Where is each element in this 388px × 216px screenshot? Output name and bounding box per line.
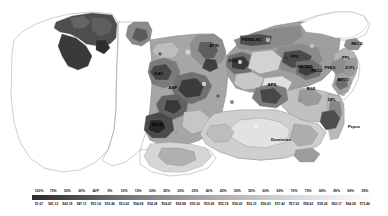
legend-value-tick: $55.09: [204, 201, 214, 207]
legend-percentile-tick: 95%: [362, 188, 369, 194]
zone-comed: [54, 13, 117, 70]
legend-percentile-tick: 75%: [50, 188, 57, 194]
legend-percentile-tick: 80%: [319, 188, 326, 194]
legend-value-tick: $58.42: [303, 201, 313, 207]
legend-percentile-tick: 30%: [177, 188, 184, 194]
legend-value-tick: $41.15: [48, 201, 58, 207]
zone-label-pepco: Pepco: [348, 125, 360, 129]
legend-percentile-tick: 10%: [121, 188, 128, 194]
legend-percentile-tick: 50%: [234, 188, 241, 194]
zone-label-atsi: ATSI: [209, 44, 219, 48]
legend-value-tick: $53.62: [119, 201, 129, 207]
zone-label-deok: DEOK: [152, 123, 165, 127]
legend-percentile-tick: 90%: [347, 188, 354, 194]
zone-label-dominion: Dominion: [271, 138, 291, 142]
zone-label-day: DAY: [155, 72, 164, 76]
zone-label-ppl: PPL: [291, 55, 299, 59]
legend-percentile-tick: AVP: [92, 188, 99, 194]
legend-value-tick: $56.05: [232, 201, 242, 207]
legend-percentile-tick: 75%: [305, 188, 312, 194]
legend-value-tick: $57.42: [275, 201, 285, 207]
legend-percentile-tick: 40%: [206, 188, 213, 194]
legend-value-ticks: $1.67$41.15$43.19$47.11$53.14$53.46$53.6…: [32, 201, 372, 208]
legend-percentile-tick: 15%: [135, 188, 142, 194]
zone-ekpc: [144, 142, 212, 172]
legend-value-tick: $47.11: [77, 201, 87, 207]
legend-percentile-tick: 20%: [149, 188, 156, 194]
legend-value-tick: $56.31: [247, 201, 257, 207]
legend-percentile-tick: 45%: [220, 188, 227, 194]
zone-label-penelec: PENELEC: [242, 38, 262, 42]
legend-value-tick: $73.46: [360, 201, 370, 207]
legend-value-tick: $43.19: [62, 201, 72, 207]
legend-value-tick: $55.30: [190, 201, 200, 207]
legend-value-tick: $54.47: [162, 201, 172, 207]
zone-label-ppl-east: PPL: [342, 56, 350, 60]
zone-label-reco: RECO: [351, 42, 363, 46]
legend-value-tick: $59.34: [317, 201, 327, 207]
legend-value-tick: $54.38: [147, 201, 157, 207]
zone-label-aeco: AECO: [337, 78, 349, 82]
legend-percentile-tick: 65%: [277, 188, 284, 194]
legend-value-tick: $64.28: [346, 201, 356, 207]
zone-label-aps: APS: [268, 83, 277, 87]
legend-value-tick: $60.17: [332, 201, 342, 207]
legend-percentile-tick: 50%: [64, 188, 71, 194]
legend-value-tick: $54.08: [133, 201, 143, 207]
legend-value-tick: $56.65: [261, 201, 271, 207]
map-svg: [0, 0, 388, 188]
legend-percentile-ticks: 100%75%50%25%AVP5%10%15%20%25%30%35%40%4…: [32, 188, 372, 195]
zone-label-aep: AEP: [169, 86, 178, 90]
legend-value-tick: $55.78: [218, 201, 228, 207]
legend-percentile-tick: 100%: [35, 188, 44, 194]
legend-percentile-tick: 5%: [107, 188, 112, 194]
legend-value-tick: $1.67: [35, 201, 43, 207]
legend-percentile-tick: 85%: [333, 188, 340, 194]
legend-value-tick: $53.46: [105, 201, 115, 207]
zone-label-jcpl: JCPL: [345, 66, 355, 70]
legend-percentile-tick: 25%: [78, 188, 85, 194]
legend-percentile-tick: 25%: [163, 188, 170, 194]
legend-value-tick: $54.98: [176, 201, 186, 207]
legend-value-tick: $57.63: [289, 201, 299, 207]
legend: 100%75%50%25%AVP5%10%15%20%25%30%35%40%4…: [0, 188, 388, 216]
zone-northern-indiana: [126, 22, 152, 46]
zone-label-dpl: DPL: [328, 98, 336, 102]
legend-colorbar: [32, 195, 372, 200]
map-figure: ATSI PENELEC DUQ PPL METED PECO PSEG JCP…: [0, 0, 388, 216]
legend-percentile-tick: 70%: [291, 188, 298, 194]
zone-label-bge: BGE: [307, 87, 316, 91]
legend-value-tick: $53.14: [91, 201, 101, 207]
legend-percentile-tick: 35%: [192, 188, 199, 194]
zone-label-duq: DUQ: [228, 59, 238, 63]
legend-percentile-tick: 60%: [262, 188, 269, 194]
legend-percentile-tick: 55%: [248, 188, 255, 194]
zone-label-peco: PECO: [311, 69, 322, 73]
zone-label-pseg: PSEG: [324, 66, 335, 70]
choropleth-map: ATSI PENELEC DUQ PPL METED PECO PSEG JCP…: [0, 0, 388, 188]
